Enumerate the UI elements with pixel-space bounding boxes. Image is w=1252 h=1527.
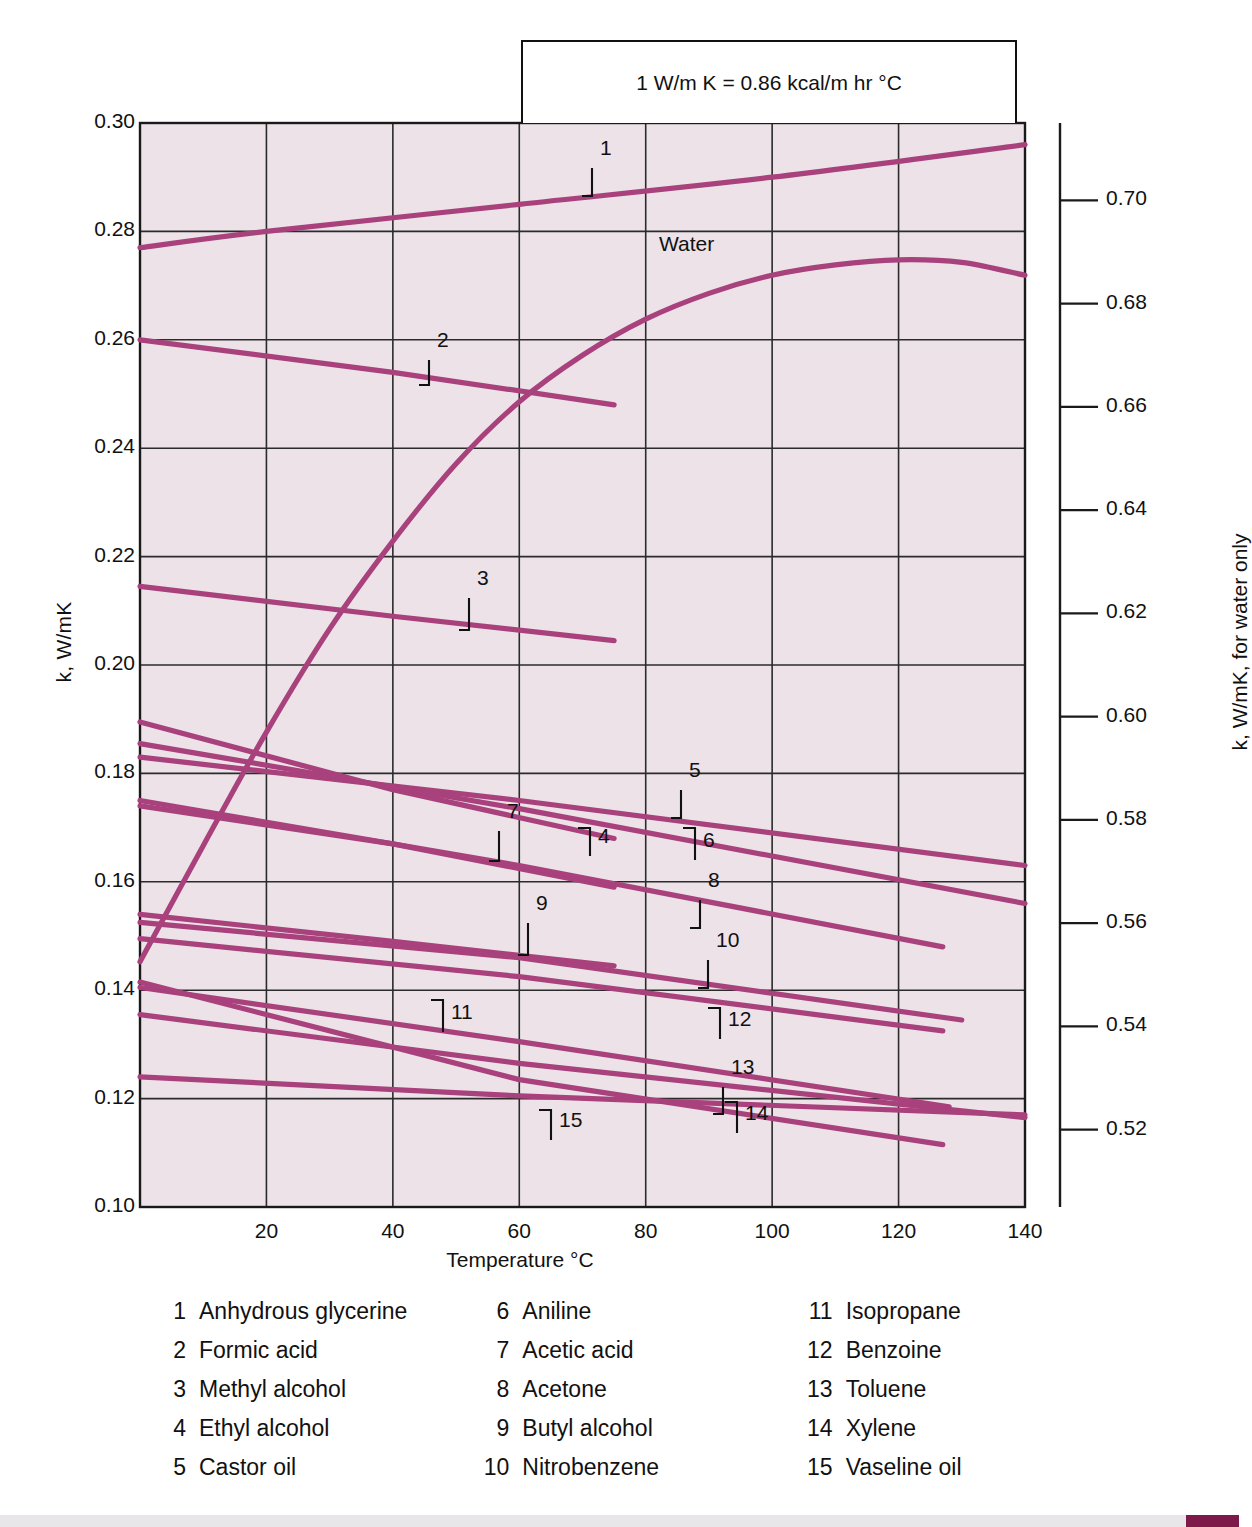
curve-tag-10: 10: [716, 928, 739, 952]
y-axis-tick-label-left: 0.24: [45, 434, 135, 458]
legend-column-2: 6Aniline7Acetic acid8Acetone9Butyl alcoh…: [473, 1292, 796, 1487]
unit-conversion-note-text: 1 W/m K = 0.86 kcal/m hr °C: [636, 71, 902, 95]
legend-item-label: Nitrobenzene: [522, 1448, 659, 1487]
legend-item-label: Butyl alcohol: [522, 1409, 652, 1448]
legend-item-number: 14: [797, 1409, 846, 1448]
legend-item: 6Aniline: [473, 1292, 796, 1331]
x-axis-tick-label: 140: [985, 1219, 1065, 1243]
y-axis-tick-label-left: 0.26: [45, 326, 135, 350]
legend-item-label: Aniline: [522, 1292, 591, 1331]
curve-tag-2: 2: [437, 328, 449, 352]
legend-item: 9Butyl alcohol: [473, 1409, 796, 1448]
y-axis-tick-label-right: 0.70: [1106, 186, 1196, 210]
y-axis-tick-label-left: 0.28: [45, 217, 135, 241]
legend-item: 2Formic acid: [150, 1331, 473, 1370]
legend-column-1: 1Anhydrous glycerine2Formic acid3Methyl …: [150, 1292, 473, 1487]
legend-item-label: Acetone: [522, 1370, 606, 1409]
curve-tag-15: 15: [559, 1108, 582, 1132]
legend-item: 3Methyl alcohol: [150, 1370, 473, 1409]
x-axis-title: Temperature °C: [0, 1248, 1040, 1272]
legend-item-label: Formic acid: [199, 1331, 318, 1370]
curve-tag-12: 12: [728, 1007, 751, 1031]
legend-item-number: 15: [797, 1448, 846, 1487]
legend-item-number: 12: [797, 1331, 846, 1370]
x-axis-tick-label: 100: [732, 1219, 812, 1243]
footer-accent-block: [1186, 1515, 1239, 1527]
curve-tag-3: 3: [477, 566, 489, 590]
y-axis-tick-label-right: 0.58: [1106, 806, 1196, 830]
y-axis-tick-label-left: 0.18: [45, 759, 135, 783]
y-axis-tick-label-right: 0.66: [1106, 393, 1196, 417]
y-axis-tick-label-left: 0.30: [45, 109, 135, 133]
legend-item-label: Acetic acid: [522, 1331, 633, 1370]
legend-item: 13Toluene: [797, 1370, 1120, 1409]
y-axis-tick-label-right: 0.62: [1106, 599, 1196, 623]
y-axis-tick-label-left: 0.16: [45, 868, 135, 892]
y-axis-tick-label-right: 0.60: [1106, 703, 1196, 727]
curve-tag-5: 5: [689, 758, 701, 782]
footer-bar: [0, 1515, 1239, 1527]
y-axis-tick-label-right: 0.56: [1106, 909, 1196, 933]
y-axis-title-right: k, W/mK, for water only: [1228, 477, 1252, 807]
legend-item-number: 5: [150, 1448, 199, 1487]
x-axis-tick-label: 120: [859, 1219, 939, 1243]
legend-item: 10Nitrobenzene: [473, 1448, 796, 1487]
legend-item-label: Vaseline oil: [846, 1448, 962, 1487]
legend-item: 5Castor oil: [150, 1448, 473, 1487]
y-axis-tick-label-left: 0.10: [45, 1193, 135, 1217]
legend-item-label: Anhydrous glycerine: [199, 1292, 407, 1331]
legend-item: 15Vaseline oil: [797, 1448, 1120, 1487]
x-axis-tick-label: 40: [353, 1219, 433, 1243]
y-axis-tick-label-left: 0.14: [45, 976, 135, 1000]
curve-tag-8: 8: [708, 868, 720, 892]
curve-tag-1: 1: [600, 136, 612, 160]
y-axis-tick-label-right: 0.68: [1106, 290, 1196, 314]
legend-item-label: Isopropane: [846, 1292, 961, 1331]
legend-item-number: 8: [473, 1370, 522, 1409]
legend-item-label: Toluene: [846, 1370, 927, 1409]
legend-item-label: Methyl alcohol: [199, 1370, 346, 1409]
x-axis-tick-label: 80: [606, 1219, 686, 1243]
x-axis-tick-label: 60: [479, 1219, 559, 1243]
y-axis-tick-label-left: 0.20: [45, 651, 135, 675]
legend-item-number: 11: [797, 1292, 846, 1331]
legend-item: 1Anhydrous glycerine: [150, 1292, 473, 1331]
legend-item-number: 3: [150, 1370, 199, 1409]
curve-tag-14: 14: [745, 1101, 768, 1125]
legend-item-label: Ethyl alcohol: [199, 1409, 329, 1448]
legend-item-number: 7: [473, 1331, 522, 1370]
unit-conversion-note: 1 W/m K = 0.86 kcal/m hr °C: [521, 40, 1017, 123]
y-axis-title-left: k, W/mK: [52, 562, 76, 722]
legend-item-number: 1: [150, 1292, 199, 1331]
y-axis-tick-label-right: 0.64: [1106, 496, 1196, 520]
legend-item: 8Acetone: [473, 1370, 796, 1409]
legend-item-number: 4: [150, 1409, 199, 1448]
y-axis-tick-label-left: 0.12: [45, 1085, 135, 1109]
curve-tag-11: 11: [451, 1000, 473, 1024]
legend: 1Anhydrous glycerine2Formic acid3Methyl …: [0, 1292, 1120, 1487]
legend-item-number: 9: [473, 1409, 522, 1448]
legend-item-number: 13: [797, 1370, 846, 1409]
curve-tag-13: 13: [731, 1055, 754, 1079]
curve-tag-4: 4: [598, 824, 610, 848]
curve-tag-7: 7: [507, 799, 519, 823]
curve-tag-6: 6: [703, 828, 715, 852]
legend-column-3: 11Isopropane12Benzoine13Toluene14Xylene1…: [797, 1292, 1120, 1487]
legend-item-number: 2: [150, 1331, 199, 1370]
curve-tag-9: 9: [536, 891, 548, 915]
y-axis-tick-label-right: 0.54: [1106, 1012, 1196, 1036]
legend-item: 4Ethyl alcohol: [150, 1409, 473, 1448]
x-axis-tick-label: 20: [226, 1219, 306, 1243]
legend-item-number: 6: [473, 1292, 522, 1331]
legend-item: 11Isopropane: [797, 1292, 1120, 1331]
legend-item-number: 10: [473, 1448, 522, 1487]
water-curve-label: Water: [659, 232, 714, 256]
legend-item: 12Benzoine: [797, 1331, 1120, 1370]
legend-item: 7Acetic acid: [473, 1331, 796, 1370]
legend-item-label: Benzoine: [846, 1331, 942, 1370]
legend-item-label: Castor oil: [199, 1448, 296, 1487]
legend-item-label: Xylene: [846, 1409, 916, 1448]
y-axis-tick-label-right: 0.52: [1106, 1116, 1196, 1140]
legend-item: 14Xylene: [797, 1409, 1120, 1448]
y-axis-tick-label-left: 0.22: [45, 543, 135, 567]
